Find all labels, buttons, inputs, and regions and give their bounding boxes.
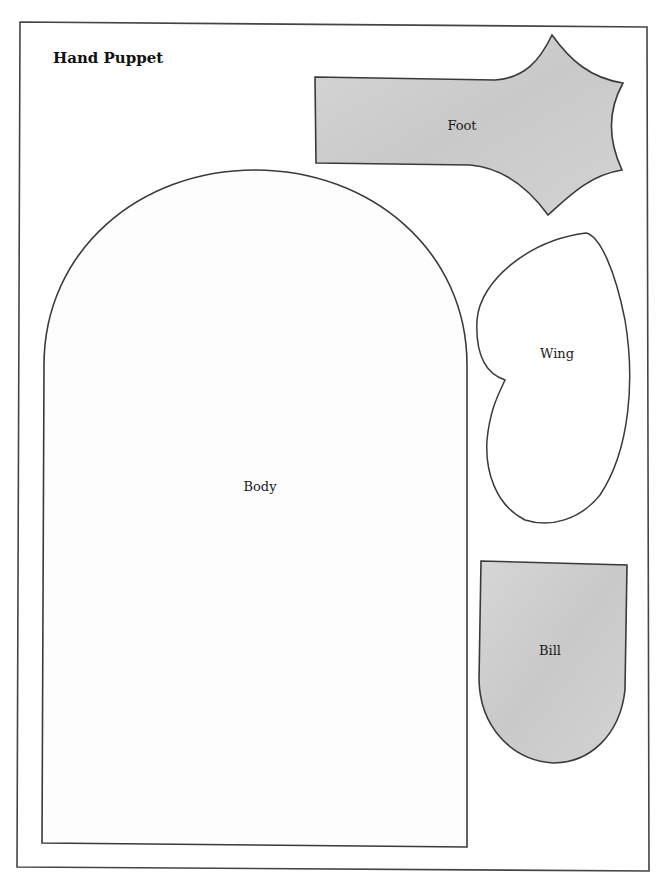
page-title: Hand Puppet: [53, 49, 163, 67]
body-piece-outline: [42, 170, 467, 847]
body-label: Body: [243, 479, 276, 494]
bill-label: Bill: [539, 643, 561, 658]
pattern-page: Hand Puppet Foot Wing Body Bill: [0, 0, 667, 887]
wing-label: Wing: [540, 346, 574, 361]
bill-piece-outline: [479, 561, 627, 763]
pattern-artwork: [0, 0, 667, 887]
wing-piece-outline: [477, 233, 630, 523]
foot-label: Foot: [447, 118, 476, 133]
